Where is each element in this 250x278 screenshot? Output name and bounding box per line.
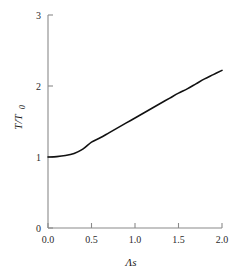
y-axis-title: T/T	[12, 113, 24, 129]
data-curve-series-0	[48, 70, 222, 157]
y-axis-title-group: T/T 0	[12, 105, 27, 130]
x-tick-label-0: 0.0	[42, 234, 55, 245]
y-tick-label-0: 0	[36, 223, 41, 234]
y-axis-title-subscript: 0	[18, 105, 27, 109]
chart-figure: 3 2 1 0 0.0 0.5 1.0 1.5 2.0 Λs T/T 0	[0, 0, 250, 278]
chart-plot-area: 3 2 1 0 0.0 0.5 1.0 1.5 2.0 Λs T/T 0	[0, 0, 250, 278]
x-tick-label-2: 1.0	[129, 234, 142, 245]
x-tick-label-1: 0.5	[85, 234, 98, 245]
x-tick-label-4: 2.0	[216, 234, 229, 245]
y-tick-label-3: 3	[36, 10, 41, 21]
y-tick-label-2: 2	[36, 81, 41, 92]
y-tick-label-1: 1	[36, 152, 41, 163]
x-tick-label-3: 1.5	[172, 234, 185, 245]
x-axis-title: Λs	[125, 256, 137, 268]
